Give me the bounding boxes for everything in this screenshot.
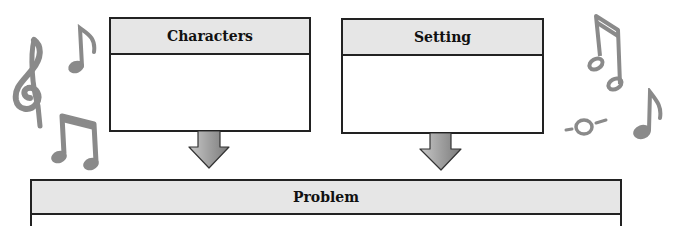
whole-note-icon xyxy=(564,114,612,138)
eighth-note-icon xyxy=(632,88,664,142)
characters-header: Characters xyxy=(111,19,309,55)
setting-header: Setting xyxy=(343,20,542,56)
eighth-note-icon xyxy=(66,24,100,76)
setting-content-area[interactable] xyxy=(343,56,542,132)
beamed-eighth-notes-icon xyxy=(584,12,636,94)
problem-header: Problem xyxy=(32,181,620,215)
setting-box: Setting xyxy=(341,18,544,134)
arrow-down-icon xyxy=(187,131,231,171)
treble-clef-icon xyxy=(8,36,52,132)
characters-content-area[interactable] xyxy=(111,55,309,130)
problem-box: Problem xyxy=(30,179,622,226)
problem-content-area[interactable] xyxy=(32,215,620,226)
arrow-down-icon xyxy=(419,133,463,173)
characters-box: Characters xyxy=(109,17,311,132)
beamed-eighth-notes-icon xyxy=(50,110,106,172)
